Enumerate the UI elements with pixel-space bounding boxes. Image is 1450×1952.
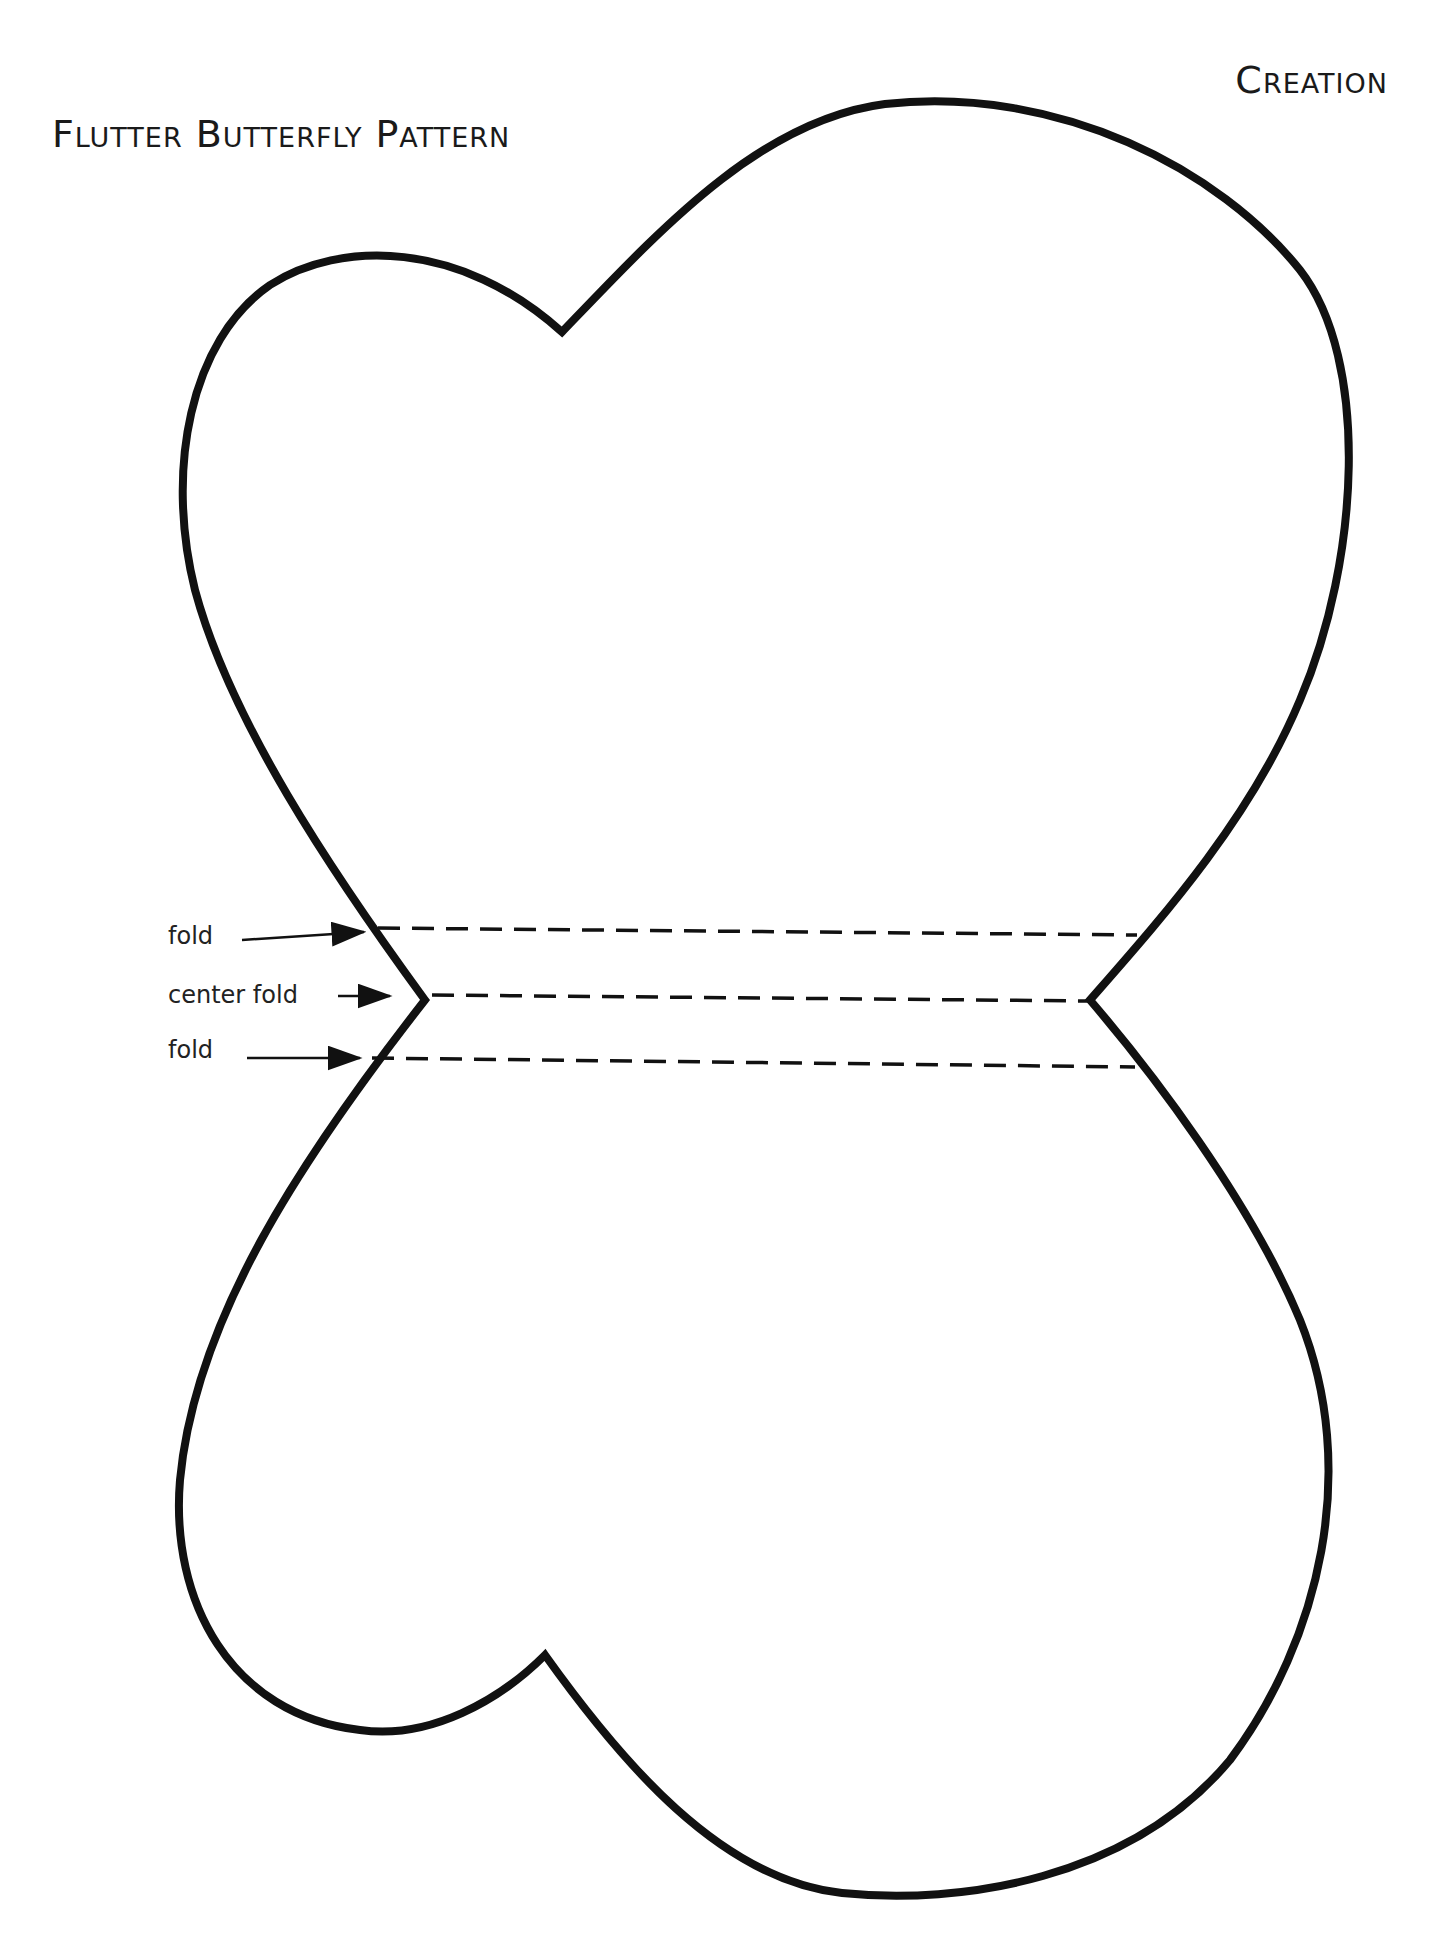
fold-line-center bbox=[432, 995, 1090, 1001]
butterfly-pattern-diagram bbox=[0, 0, 1450, 1952]
center-fold-label: center fold bbox=[168, 981, 298, 1009]
fold-line-upper bbox=[378, 928, 1137, 935]
fold-label: fold bbox=[168, 922, 213, 950]
fold-label: fold bbox=[168, 1036, 213, 1064]
fold-line-lower bbox=[372, 1058, 1135, 1067]
arrow-icon bbox=[242, 932, 364, 940]
butterfly-outline bbox=[179, 101, 1349, 1895]
